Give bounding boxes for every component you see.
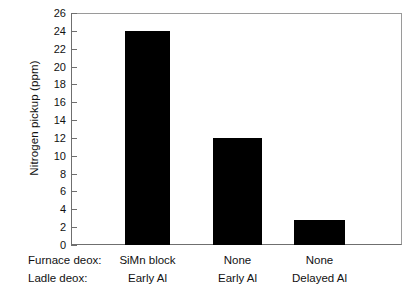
y-tick-label: 4	[60, 203, 66, 215]
y-tick-label: 0	[60, 239, 66, 251]
y-tick-mark	[71, 84, 77, 85]
category-3-ladle-deox: Delayed Al	[260, 272, 380, 284]
y-tick-label: 20	[54, 61, 66, 73]
y-tick-mark	[71, 227, 77, 228]
plot-area: 02468101214161820222426	[71, 13, 402, 245]
y-tick-label: 22	[54, 43, 66, 55]
y-tick-mark	[71, 245, 77, 246]
bar-2	[213, 138, 262, 245]
category-3-furnace-deox: None	[260, 254, 380, 266]
y-tick-label: 12	[54, 132, 66, 144]
y-tick-label: 6	[60, 185, 66, 197]
y-axis-title: Nitrogen pickup (ppm)	[28, 18, 40, 218]
y-tick-mark	[71, 31, 77, 32]
bar-3	[294, 220, 345, 245]
category-label-table: Furnace deox: Ladle deox: SiMn block Ear…	[0, 252, 419, 296]
y-tick-mark	[71, 49, 77, 50]
y-tick-label: 26	[54, 7, 66, 19]
y-tick-mark	[71, 191, 77, 192]
y-tick-mark	[71, 120, 77, 121]
y-tick-mark	[71, 174, 77, 175]
y-tick-label: 14	[54, 114, 66, 126]
y-tick-mark	[71, 138, 77, 139]
y-tick-mark	[71, 156, 77, 157]
y-tick-label: 10	[54, 150, 66, 162]
y-tick-mark	[71, 209, 77, 210]
y-tick-mark	[71, 67, 77, 68]
y-tick-label: 16	[54, 96, 66, 108]
y-tick-label: 2	[60, 221, 66, 233]
y-tick-label: 8	[60, 168, 66, 180]
bar-chart-figure: Nitrogen pickup (ppm) 024681012141618202…	[0, 0, 419, 298]
row-header-ladle-deox: Ladle deox:	[28, 272, 87, 284]
y-tick-mark	[71, 102, 77, 103]
y-tick-label: 18	[54, 78, 66, 90]
y-tick-label: 24	[54, 25, 66, 37]
y-tick-mark	[71, 13, 77, 14]
bar-1	[125, 31, 170, 245]
